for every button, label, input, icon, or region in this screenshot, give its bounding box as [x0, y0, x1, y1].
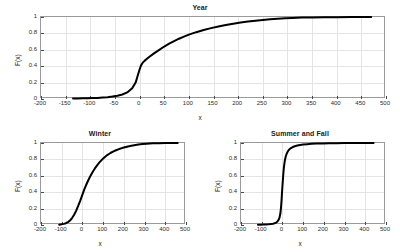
- x-tick-label: 100: [97, 226, 107, 232]
- y-tick-label: 1: [219, 139, 237, 145]
- x-axis-label-winter: x: [0, 240, 200, 247]
- x-tick-label: 500: [380, 226, 390, 232]
- x-tick-label: 0: [137, 100, 140, 106]
- x-tick-label: 400: [159, 226, 169, 232]
- x-tick-label: 300: [281, 100, 291, 106]
- y-tick-label: 0.4: [19, 188, 37, 194]
- series-path: [59, 143, 177, 225]
- x-tick-label: 200: [232, 100, 242, 106]
- y-tick-label: 0.4: [19, 62, 37, 68]
- curve-winter: [41, 143, 186, 225]
- x-tick-label: 0: [280, 226, 283, 232]
- x-tick-label: 0: [80, 226, 83, 232]
- y-tick-label: 0.2: [219, 205, 237, 211]
- x-tick-label: 100: [297, 226, 307, 232]
- x-tick: [386, 222, 387, 225]
- series-path: [258, 143, 374, 225]
- x-tick: [186, 222, 187, 225]
- x-tick-label: 50: [160, 100, 167, 106]
- x-tick-label: 400: [331, 100, 341, 106]
- x-tick-label: -50: [110, 100, 119, 106]
- x-tick-label: -100: [83, 100, 95, 106]
- y-tick-label: 0.2: [19, 79, 37, 85]
- y-tick-label: 0: [219, 221, 237, 227]
- curve-summer-and-fall: [241, 143, 386, 225]
- y-tick-label: 0.8: [219, 155, 237, 161]
- x-tick-label: 350: [306, 100, 316, 106]
- y-tick-label: 0.4: [219, 188, 237, 194]
- x-tick-label: 300: [139, 226, 149, 232]
- x-tick-label: 250: [257, 100, 267, 106]
- x-tick-label: 450: [355, 100, 365, 106]
- x-tick-label: 300: [339, 226, 349, 232]
- x-tick: [386, 96, 387, 99]
- y-tick-label: 0.2: [19, 205, 37, 211]
- x-tick-label: 200: [318, 226, 328, 232]
- x-tick-label: 100: [183, 100, 193, 106]
- panel-year: Year F(x) x -200-150-100-500501001502002…: [0, 0, 400, 126]
- x-tick-label: 150: [207, 100, 217, 106]
- x-tick-label: 500: [180, 226, 190, 232]
- y-tick-label: 0.6: [19, 46, 37, 52]
- x-axis-label-year: x: [0, 114, 400, 121]
- plot-area-year: [40, 16, 385, 98]
- y-tick-label: 0: [19, 221, 37, 227]
- series-path: [73, 17, 371, 99]
- y-tick-label: 0.6: [19, 172, 37, 178]
- curve-year: [41, 17, 386, 99]
- x-tick-label: -150: [59, 100, 71, 106]
- panel-winter: Winter F(x) x -200-100010020030040050000…: [0, 126, 200, 252]
- x-tick-label: 500: [380, 100, 390, 106]
- x-axis-label-summer-and-fall: x: [200, 240, 400, 247]
- panel-summer-and-fall: Summer and Fall F(x) x -200-100010020030…: [200, 126, 400, 252]
- y-tick-label: 1: [19, 139, 37, 145]
- chart-title-winter: Winter: [0, 130, 200, 137]
- x-tick-label: 400: [359, 226, 369, 232]
- chart-title-year: Year: [0, 4, 400, 11]
- x-tick-label: -100: [55, 226, 67, 232]
- y-tick-label: 0.6: [219, 172, 237, 178]
- x-tick-label: -100: [255, 226, 267, 232]
- ecdf-figure: Year F(x) x -200-150-100-500501001502002…: [0, 0, 400, 252]
- y-tick-label: 0: [19, 95, 37, 101]
- y-tick-label: 0.8: [19, 155, 37, 161]
- y-tick-label: 1: [19, 13, 37, 19]
- chart-title-summer-and-fall: Summer and Fall: [200, 130, 400, 137]
- plot-area-winter: [40, 142, 185, 224]
- plot-area-summer-and-fall: [240, 142, 385, 224]
- y-tick-label: 0.8: [19, 29, 37, 35]
- x-tick-label: 200: [118, 226, 128, 232]
